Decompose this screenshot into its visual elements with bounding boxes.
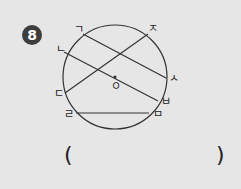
label-siot: ㅅ bbox=[169, 72, 179, 85]
center-label: ㅇ bbox=[111, 80, 121, 93]
diameter-nieun-bieup bbox=[64, 52, 158, 101]
circle-diagram: ㅇ ㄱ ㄴ ㄷ ㄹ ㅁ ㅂ ㅅ ㅈ bbox=[0, 0, 241, 189]
label-giyeok: ㄱ bbox=[74, 23, 84, 36]
label-digeut: ㄷ bbox=[54, 87, 64, 100]
answer-open-paren: ( bbox=[64, 142, 73, 167]
label-rieul: ㄹ bbox=[64, 108, 74, 121]
answer-close-paren: ) bbox=[216, 142, 225, 167]
label-jieut: ㅈ bbox=[148, 22, 158, 35]
label-nieun: ㄴ bbox=[56, 43, 66, 56]
label-mieum: ㅁ bbox=[153, 108, 163, 121]
center-point bbox=[114, 76, 117, 79]
label-bieup: ㅂ bbox=[161, 95, 171, 108]
chord-digeut-jieut bbox=[65, 34, 148, 93]
